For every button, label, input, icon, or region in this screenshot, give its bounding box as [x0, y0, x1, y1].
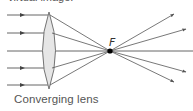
refracted-rays [50, 15, 110, 85]
arrowhead-icon [20, 83, 25, 87]
focal-point-label: F [109, 36, 116, 49]
convex-lens-shape [43, 12, 56, 89]
arrowhead-icon [20, 66, 25, 70]
focal-point-dot [107, 48, 112, 53]
diagram-caption: Converging lens [14, 93, 99, 105]
incoming-rays [7, 15, 193, 85]
incoming-arrowheads [20, 13, 25, 87]
arrowhead-icon [20, 13, 25, 17]
arrowhead-icon [20, 31, 25, 35]
diverging-rays [110, 14, 186, 82]
